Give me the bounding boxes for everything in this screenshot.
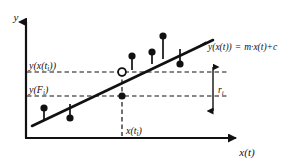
tick-label-x-sample-value: x(ti) xyxy=(125,125,143,138)
data-point-7 xyxy=(176,60,183,67)
fit-line-equation-label: y(x(t))=m·x(t)+c xyxy=(207,42,278,53)
data-points-group xyxy=(40,32,183,121)
equation-equals: = xyxy=(235,42,241,52)
data-point-1 xyxy=(40,104,47,111)
y-axis-label: y xyxy=(13,11,19,23)
equation-x-term: x(t) xyxy=(252,42,266,53)
tick-label-x-sample-base: x(t xyxy=(125,125,137,137)
tick-label-y-fit-tail: )) xyxy=(48,60,56,72)
data-point-6 xyxy=(159,32,166,39)
fitted-value-open-circle xyxy=(118,68,126,76)
tick-label-y-fit-base: y(x(t xyxy=(28,60,48,72)
figure-canvas: y x(t) y(x(ti)) y(Fi) x(ti) ri y(x(t))=m… xyxy=(0,0,297,162)
data-point-4 xyxy=(128,52,135,59)
x-axis-label: x(t) xyxy=(238,146,255,159)
tick-label-y-fit-value: y(x(ti)) xyxy=(28,60,57,73)
residual-label-subscript: i xyxy=(222,89,224,96)
data-point-5 xyxy=(148,48,155,55)
tick-label-y-measured-value: y(Fi) xyxy=(28,84,49,97)
regression-residual-figure: y x(t) y(x(ti)) y(Fi) x(ti) ri y(x(t))=m… xyxy=(0,0,297,162)
tick-label-y-measured-tail: ) xyxy=(44,84,49,96)
data-point-3 xyxy=(118,92,125,99)
equation-lhs: y(x(t)) xyxy=(207,42,232,53)
data-point-2 xyxy=(66,114,73,121)
tick-label-x-sample-tail: ) xyxy=(138,125,143,137)
tick-label-y-measured-base: y(F xyxy=(28,84,44,96)
data-point-stems-group xyxy=(44,36,180,120)
equation-intercept: c xyxy=(273,42,278,52)
residual-label: ri xyxy=(218,85,224,96)
